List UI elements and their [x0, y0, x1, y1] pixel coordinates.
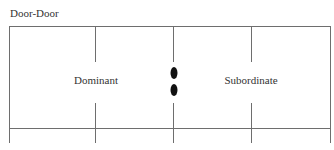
divider-top-1 [95, 26, 96, 62]
divider-bottom-center [173, 103, 174, 143]
divider-bottom-1 [95, 103, 96, 143]
divider-top-3 [251, 26, 252, 62]
left-boundary-line [9, 26, 10, 143]
right-boundary-line [330, 26, 331, 143]
region-label-dominant: Dominant [74, 73, 118, 87]
separator-oval-lower [170, 84, 177, 96]
region-label-subordinate: Subordinate [224, 73, 277, 87]
top-boundary-line [9, 26, 331, 27]
bottom-boundary-line [9, 128, 331, 129]
diagram-title: Door-Door [10, 6, 59, 20]
separator-oval-upper [170, 67, 177, 79]
divider-top-center [173, 26, 174, 62]
divider-bottom-3 [251, 103, 252, 143]
